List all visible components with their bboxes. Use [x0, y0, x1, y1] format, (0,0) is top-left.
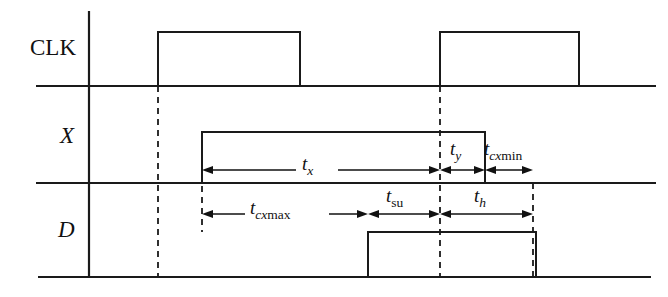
tcxmax-arrowhead-left [202, 210, 213, 218]
ty-arrowhead-left [440, 166, 451, 174]
tsu-arrowhead-left [368, 210, 379, 218]
signal-label-x: X [59, 123, 75, 148]
signal-label-d: D [57, 217, 75, 242]
timing-diagram-figure: CLK X D tx ty tcxmin [0, 0, 668, 297]
tcxmin-label: tcxmin [484, 138, 523, 163]
measure-ty: ty [440, 138, 485, 174]
tcxmax-arrowhead-right [357, 210, 368, 218]
timing-diagram-canvas: CLK X D tx ty tcxmin [0, 0, 668, 297]
ty-label: ty [450, 138, 461, 163]
x-waveform [89, 132, 655, 183]
measure-tsu: tsu [368, 185, 440, 218]
measure-tcxmin: tcxmin [484, 138, 533, 174]
signal-label-clk: CLK [30, 35, 76, 60]
tcxmin-arrowhead-right [522, 166, 533, 174]
tsu-arrowhead-right [429, 210, 440, 218]
tcxmin-arrowhead-left [485, 166, 496, 174]
measure-tcxmax: tcxmax [202, 196, 368, 222]
measure-tx: tx [202, 152, 440, 178]
measure-th: th [440, 185, 533, 218]
clk-waveform [89, 32, 655, 86]
th-arrowhead-right [522, 210, 533, 218]
th-label: th [474, 185, 486, 210]
tx-arrowhead-right [429, 166, 440, 174]
tsu-label: tsu [386, 185, 404, 210]
d-waveform [89, 232, 650, 277]
ty-arrowhead-right [474, 166, 485, 174]
tx-arrowhead-left [202, 166, 213, 174]
th-arrowhead-left [440, 210, 451, 218]
